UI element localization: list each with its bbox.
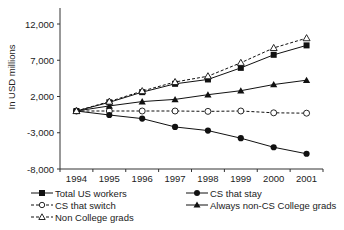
y-tick-label: 7,000: [30, 55, 54, 66]
y-tick-label: 12,000: [25, 19, 54, 30]
x-tick-label: 2001: [296, 173, 317, 184]
axes: [60, 8, 323, 169]
x-tick-label: 1997: [164, 173, 185, 184]
series-always-non-cs-college-grads: [73, 77, 310, 114]
x-tick-label: 2000: [263, 173, 284, 184]
y-tick-label: -3,000: [27, 127, 54, 138]
y-tick-label: -8,000: [27, 164, 54, 175]
line-chart: 12,0007,0002,000-3,000-8,000 19941995199…: [0, 0, 344, 230]
series-non-college-grads: [73, 35, 310, 114]
x-tick-label: 1995: [99, 173, 120, 184]
y-axis-ticks: 12,0007,0002,000-3,000-8,000: [25, 19, 60, 175]
x-tick-label: 1998: [197, 173, 218, 184]
y-axis-label: In USD millions: [6, 44, 17, 109]
x-tick-label: 1996: [132, 173, 153, 184]
x-tick-label: 1999: [230, 173, 251, 184]
y-tick-label: 2,000: [30, 91, 54, 102]
x-axis-ticks: 19941995199619971998199920002001: [60, 169, 323, 184]
series-group: [73, 35, 310, 157]
x-tick-label: 1994: [66, 173, 87, 184]
